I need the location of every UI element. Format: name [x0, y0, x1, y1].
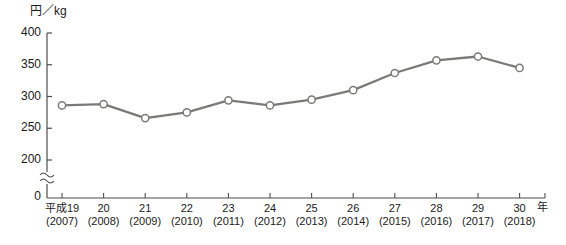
data-point-marker — [225, 97, 232, 104]
data-point-marker — [183, 109, 190, 116]
x-axis-western-year-label: (2018) — [494, 215, 546, 228]
data-point-marker — [308, 96, 315, 103]
data-point-marker — [266, 102, 273, 109]
y-axis-tick-label: 350 — [7, 57, 41, 71]
data-point-marker — [58, 102, 65, 109]
x-axis-tick-label-group: 30(2018) — [494, 202, 546, 228]
data-point-marker — [474, 53, 481, 60]
y-axis-tick-label: 400 — [7, 25, 41, 39]
data-point-marker — [516, 64, 523, 71]
y-axis-tick-label: 300 — [7, 89, 41, 103]
y-axis-zero-tick-label: 0 — [7, 189, 41, 203]
axis-break-marker — [40, 173, 54, 183]
line-chart: 円／kg 年 200250300350400 平成19(2007)20(2008… — [0, 0, 566, 245]
data-point-marker — [350, 87, 357, 94]
data-line — [62, 57, 520, 119]
data-point-marker — [142, 114, 149, 121]
data-point-marker — [433, 57, 440, 64]
y-axis-tick-label: 200 — [7, 152, 41, 166]
y-axis-tick-label: 250 — [7, 120, 41, 134]
data-point-marker — [391, 69, 398, 76]
x-axis-era-label: 30 — [494, 202, 546, 215]
data-point-marker — [100, 101, 107, 108]
